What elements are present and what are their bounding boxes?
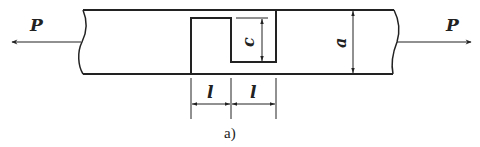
dimension-c: c bbox=[236, 18, 268, 61]
stepped-notch bbox=[191, 10, 276, 74]
force-left: P bbox=[12, 15, 81, 42]
dimension-c-label: c bbox=[239, 37, 258, 47]
dimension-l bbox=[191, 78, 276, 119]
dimension-a-label: a bbox=[331, 38, 350, 48]
force-left-label: P bbox=[29, 15, 44, 35]
force-right: P bbox=[397, 15, 471, 42]
dimension-l-label-right: l bbox=[250, 82, 257, 102]
dimension-a: a bbox=[331, 11, 353, 73]
figure-caption: a) bbox=[224, 125, 236, 142]
dimension-l-label-left: l bbox=[207, 82, 214, 102]
notched-bar-diagram: P P c a l l a) bbox=[0, 0, 480, 147]
force-right-label: P bbox=[445, 15, 460, 35]
